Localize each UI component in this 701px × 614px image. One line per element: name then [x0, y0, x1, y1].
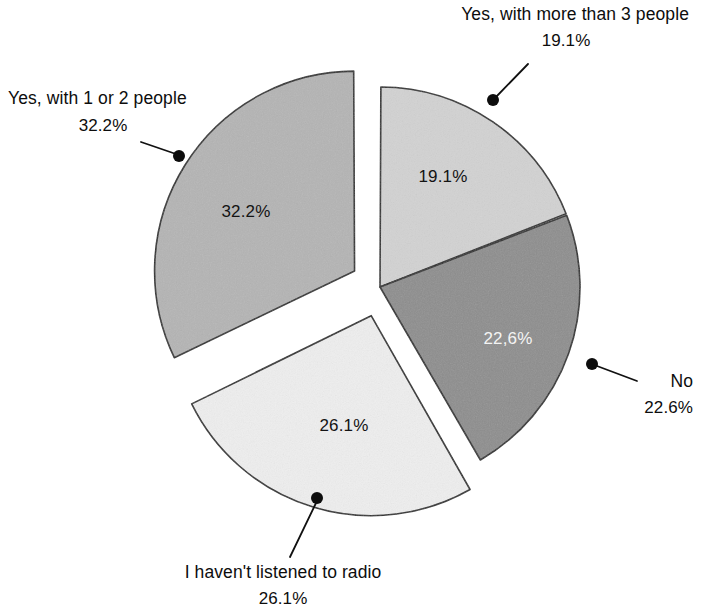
slice-label-no: 22,6% — [483, 329, 532, 348]
slice-label-yes-1-or-2: 32.2% — [221, 202, 270, 221]
leader-dot-yes-more-than-3 — [487, 94, 499, 106]
pie-chart-figure: 19.1% 22,6% 26.1% 32.2% Yes, with more t… — [0, 0, 701, 614]
callout-value-yes-more-than-3: 19.1% — [542, 31, 591, 50]
callout-label-no: No — [670, 371, 693, 391]
callout-label-yes-1-or-2: Yes, with 1 or 2 people — [8, 88, 187, 108]
callout-label-yes-more-than-3: Yes, with more than 3 people — [461, 4, 689, 24]
callout-value-yes-1-or-2: 32.2% — [79, 116, 128, 135]
callout-value-havent-listened: 26.1% — [259, 589, 308, 608]
slice-label-yes-more-than-3: 19.1% — [418, 167, 467, 186]
callout-label-havent-listened: I haven't listened to radio — [185, 562, 382, 582]
callout-value-no: 22.6% — [644, 398, 693, 417]
slice-label-havent-listened: 26.1% — [319, 416, 368, 435]
leader-dot-yes-1-or-2 — [173, 150, 185, 162]
leader-dot-havent-listened — [311, 492, 323, 504]
pie-chart-svg: 19.1% 22,6% 26.1% 32.2% Yes, with more t… — [0, 0, 701, 614]
leader-dot-no — [586, 358, 598, 370]
